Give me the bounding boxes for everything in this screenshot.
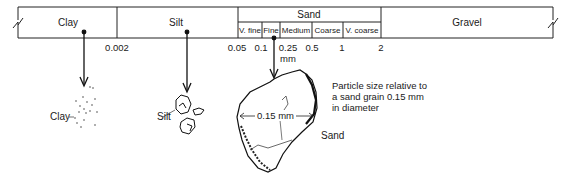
- tick-0-002: 0.002: [105, 42, 129, 53]
- tick-0-25: 0.25: [279, 42, 298, 53]
- unit-label: mm: [280, 53, 296, 64]
- subclass-fine: Fine: [262, 26, 280, 35]
- particle-label-clay: Clay: [50, 111, 70, 122]
- class-label-silt: Silt: [169, 17, 183, 28]
- class-label-sand: Sand: [297, 9, 320, 20]
- tick-0-5: 0.5: [305, 42, 318, 53]
- particle-label-sand: Sand: [321, 130, 344, 141]
- particle-label-silt: Silt: [157, 111, 171, 122]
- clay-particles-icon: [74, 86, 97, 127]
- subclass-v-coarse: V. coarse: [343, 26, 381, 35]
- subclass-medium: Medium: [280, 26, 312, 35]
- subclass-v-fine: V. fine: [238, 26, 262, 35]
- tick-0-05: 0.05: [228, 42, 247, 53]
- subclass-coarse: Coarse: [312, 26, 343, 35]
- size-note-line-2: a sand grain 0.15 mm: [332, 91, 427, 102]
- size-note: Particle size relative to a sand grain 0…: [332, 80, 427, 113]
- sand-grain-icon: [237, 70, 317, 172]
- tick-0-1: 0.1: [254, 42, 267, 53]
- size-note-line-3: in diameter: [332, 102, 427, 113]
- sand-measure-label: 0.15 mm: [255, 110, 296, 121]
- tick-1: 1: [339, 42, 344, 53]
- class-label-clay: Clay: [58, 17, 78, 28]
- class-label-gravel: Gravel: [452, 17, 481, 28]
- tick-2: 2: [378, 42, 383, 53]
- silt-particles-icon: [176, 95, 204, 134]
- size-note-line-1: Particle size relative to: [332, 80, 427, 91]
